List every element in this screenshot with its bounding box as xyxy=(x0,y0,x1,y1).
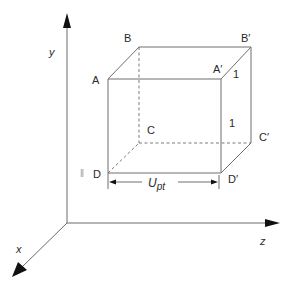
x-axis xyxy=(22,223,67,267)
dimension-label: Upt xyxy=(148,176,166,192)
y-axis-arrow-icon xyxy=(63,13,71,28)
x-axis-label: x xyxy=(15,243,22,255)
edge-D-C xyxy=(108,143,139,173)
edge-label-top-depth: 1 xyxy=(233,68,239,80)
axes: y x z xyxy=(12,13,280,277)
edge-label-right-height: 1 xyxy=(229,117,235,129)
dimension-arrow-left-icon xyxy=(109,180,116,185)
hidden-edges xyxy=(108,47,251,173)
edge-labels: 1 1 xyxy=(229,68,239,129)
edge-D-prime-C-prime xyxy=(221,143,251,173)
vertex-labels: A B C D A′ B′ C′ D′ xyxy=(92,32,269,185)
vertex-label-C-prime: C′ xyxy=(259,131,269,143)
z-axis-label: z xyxy=(259,235,266,247)
vertex-label-B-prime: B′ xyxy=(241,32,250,44)
vertex-label-D: D xyxy=(93,168,101,180)
vertex-label-C: C xyxy=(147,124,155,136)
vertex-label-A: A xyxy=(92,74,100,86)
stray-mark: ǁ xyxy=(80,168,84,179)
visible-edges xyxy=(108,47,251,173)
vertex-label-B: B xyxy=(124,32,131,44)
dimension-arrow-right-icon xyxy=(211,180,218,185)
vertex-label-D-prime: D′ xyxy=(228,173,238,185)
z-axis-arrow-icon xyxy=(265,219,280,227)
dimension-label-sub: pt xyxy=(156,181,167,192)
dimension-u-pt: Upt xyxy=(108,173,219,192)
dimension-label-main: U xyxy=(148,176,157,190)
edge-A-B xyxy=(108,47,139,79)
vertex-label-A-prime: A′ xyxy=(213,63,222,75)
cube-diagram: y x z Upt A B C xyxy=(0,0,291,290)
y-axis-label: y xyxy=(48,46,56,58)
